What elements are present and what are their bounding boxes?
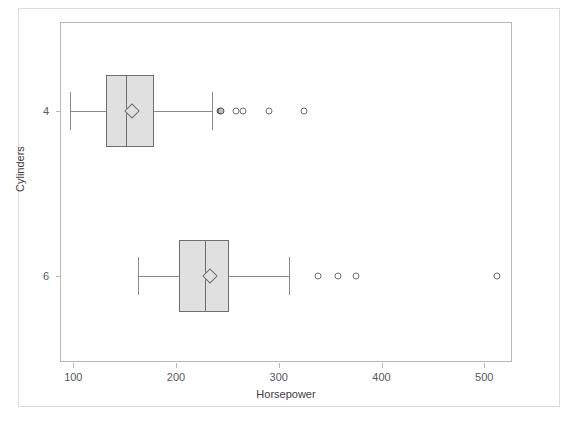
x-axis-tick [382, 363, 383, 368]
x-axis-title: Horsepower [60, 388, 512, 400]
y-axis-tick [56, 111, 61, 112]
box-group-6-cylinders [61, 23, 511, 361]
outlier-point [335, 273, 342, 280]
boxplot-figure: Cylinders Horsepower 10020030040050046 [0, 0, 578, 422]
y-axis-title: Cylinders [14, 146, 26, 192]
x-axis-tick-label: 100 [64, 371, 82, 383]
y-axis-tick-label: 6 [43, 270, 49, 282]
x-axis-tick-label: 200 [167, 371, 185, 383]
whisker-high-line [229, 276, 289, 277]
x-axis-tick-label: 400 [372, 371, 390, 383]
plot-area [61, 23, 511, 361]
outlier-point [493, 273, 500, 280]
outlier-point [314, 273, 321, 280]
whisker-low-line [138, 276, 179, 277]
x-axis-tick-label: 500 [475, 371, 493, 383]
whisker-low-cap [138, 257, 139, 295]
plot-frame: 10020030040050046 [60, 22, 512, 362]
y-axis-tick [56, 276, 61, 277]
y-axis-tick-label: 4 [43, 105, 49, 117]
x-axis-tick [176, 363, 177, 368]
x-axis-tick [279, 363, 280, 368]
whisker-high-cap [289, 257, 290, 295]
x-axis-tick [484, 363, 485, 368]
x-axis-tick [73, 363, 74, 368]
x-axis-tick-label: 300 [270, 371, 288, 383]
outlier-point [352, 273, 359, 280]
